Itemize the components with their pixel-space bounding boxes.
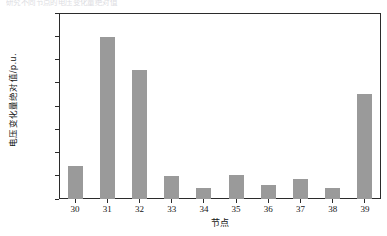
- chart-figure: 研究不同节点的电压变化量绝对值 电压变化量绝对值/p.u. 0.00000.01…: [0, 0, 387, 236]
- x-axis-tick-label: 35: [220, 203, 252, 215]
- x-axis-tick-label: 38: [317, 203, 349, 215]
- bar: [325, 188, 340, 199]
- x-axis-tick-label: 36: [252, 203, 284, 215]
- x-axis-tick-label: 33: [156, 203, 188, 215]
- bar: [164, 176, 179, 199]
- x-axis-title: 节点: [55, 216, 385, 229]
- y-axis-title: 电压变化量绝对值/p.u.: [2, 0, 22, 200]
- bar: [261, 185, 276, 199]
- bar: [196, 188, 211, 199]
- bar: [100, 37, 115, 199]
- bars-layer: [59, 13, 381, 199]
- x-axis-tick-label: 34: [188, 203, 220, 215]
- x-axis-tick-label: 37: [285, 203, 317, 215]
- x-axis-tick-label: 31: [91, 203, 123, 215]
- bar: [229, 175, 244, 199]
- x-axis-tick-label: 39: [349, 203, 381, 215]
- x-axis-tick-label: 30: [59, 203, 91, 215]
- x-axis-tick-label: 32: [124, 203, 156, 215]
- clipped-caption-above: 研究不同节点的电压变化量绝对值: [6, 0, 226, 6]
- bar: [357, 94, 372, 199]
- y-axis-title-text: 电压变化量绝对值/p.u.: [6, 53, 18, 147]
- bar: [132, 70, 147, 200]
- bar: [68, 166, 83, 199]
- bar: [293, 179, 308, 199]
